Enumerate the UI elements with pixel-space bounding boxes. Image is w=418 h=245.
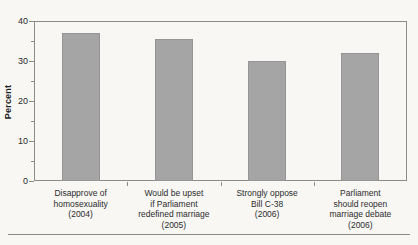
bars-container xyxy=(34,21,407,181)
category-label-line: Disapprove of xyxy=(36,188,125,199)
y-tick-mark xyxy=(29,181,34,182)
bottom-rule xyxy=(8,234,410,235)
bar xyxy=(341,53,379,181)
category-label-line: (2005) xyxy=(129,220,218,231)
x-axis-category-labels: Disapprove ofhomosexuality(2004)Would be… xyxy=(34,188,407,230)
category-label-line: if Parliament xyxy=(129,199,218,210)
category-label-line: (2006) xyxy=(316,220,405,231)
y-tick-label: 40 xyxy=(0,16,28,27)
category-label-line: (2004) xyxy=(36,209,125,220)
category-label-line: Strongly oppose xyxy=(223,188,312,199)
x-tick-mark xyxy=(127,182,128,186)
category-label-line: redefined marriage xyxy=(129,209,218,220)
bar xyxy=(248,61,286,181)
y-tick-label: 10 xyxy=(0,136,28,147)
category-label-line: should reopen xyxy=(316,199,405,210)
category-label-line: homosexuality xyxy=(36,199,125,210)
y-tick-label: 30 xyxy=(0,56,28,67)
category-label-line: Parliament xyxy=(316,188,405,199)
bar-chart: Percent 010203040 Disapprove ofhomosexua… xyxy=(0,0,418,245)
bar xyxy=(155,39,193,181)
x-tick-mark xyxy=(221,182,222,186)
bar xyxy=(62,33,100,181)
category-label-line: marriage debate xyxy=(316,209,405,220)
category-label-line: (2006) xyxy=(223,209,312,220)
category-label: Would be upsetif Parliamentredefined mar… xyxy=(127,188,220,230)
category-label-line: Bill C-38 xyxy=(223,199,312,210)
y-tick-label: 0 xyxy=(0,176,28,187)
category-label-line: Would be upset xyxy=(129,188,218,199)
category-label: Disapprove ofhomosexuality(2004) xyxy=(34,188,127,230)
x-tick-mark xyxy=(314,182,315,186)
category-label: Parliamentshould reopenmarriage debate(2… xyxy=(314,188,407,230)
y-tick-label: 20 xyxy=(0,96,28,107)
category-label: Strongly opposeBill C-38(2006) xyxy=(221,188,314,230)
